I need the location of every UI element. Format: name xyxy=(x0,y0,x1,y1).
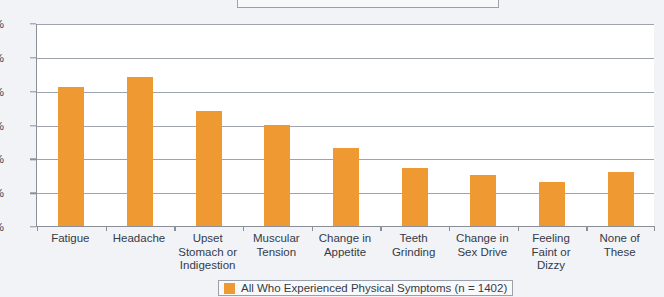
x-axis-category-label: FeelingFaint orDizzy xyxy=(517,232,586,273)
bar-slot xyxy=(106,24,175,226)
x-axis-category-label-line: Appetite xyxy=(311,246,380,260)
bar[interactable] xyxy=(196,111,222,226)
x-axis-category-label-line: Stomach or xyxy=(173,246,242,260)
x-axis-category-label: TeethGrinding xyxy=(379,232,448,259)
x-axis-tick-mark xyxy=(586,226,587,231)
bar[interactable] xyxy=(608,172,634,226)
x-axis-tick-mark xyxy=(380,226,381,231)
x-axis-tick-mark xyxy=(106,226,107,231)
bar[interactable] xyxy=(264,125,290,227)
x-axis-tick-mark xyxy=(312,226,313,231)
y-axis-tick-label: 20% xyxy=(0,153,4,165)
title-box xyxy=(237,0,499,8)
x-axis-category-label-line: Faint or xyxy=(517,246,586,260)
bar[interactable] xyxy=(470,175,496,226)
x-axis-category-label-line: Indigestion xyxy=(173,259,242,273)
x-axis-category-label: Fatigue xyxy=(36,232,105,246)
x-axis-tick-mark xyxy=(37,226,38,231)
bar-slot xyxy=(174,24,243,226)
chart-legend: All Who Experienced Physical Symptoms (n… xyxy=(218,280,513,296)
x-axis-category-label-line: Feeling xyxy=(517,232,586,246)
x-axis-category-label: MuscularTension xyxy=(242,232,311,259)
bar[interactable] xyxy=(127,77,153,226)
bar-slot xyxy=(380,24,449,226)
x-axis-category-label: UpsetStomach orIndigestion xyxy=(173,232,242,273)
x-axis-category-label-line: Upset xyxy=(173,232,242,246)
y-axis-tick-label: 60% xyxy=(0,18,4,30)
legend-label: All Who Experienced Physical Symptoms (n… xyxy=(241,282,507,294)
x-axis-category-label: None ofThese xyxy=(585,232,654,259)
chart-plot-area xyxy=(36,24,654,227)
x-axis-category-label-line: Grinding xyxy=(379,246,448,260)
x-axis-category-label-line: Teeth xyxy=(379,232,448,246)
y-axis-tick-label: 30% xyxy=(0,120,4,132)
x-axis-tick-mark xyxy=(174,226,175,231)
y-axis-tick-label: 0% xyxy=(0,221,4,233)
bar[interactable] xyxy=(402,168,428,226)
x-axis-category-label-line: Tension xyxy=(242,246,311,260)
bar[interactable] xyxy=(333,148,359,226)
bar-slot xyxy=(243,24,312,226)
y-axis-tick-label: 40% xyxy=(0,86,4,98)
x-axis-category-label-line: Change in xyxy=(448,232,517,246)
x-axis-tick-mark xyxy=(518,226,519,231)
x-axis-category-label-line: Muscular xyxy=(242,232,311,246)
bar[interactable] xyxy=(58,87,84,226)
bar-slot xyxy=(37,24,106,226)
x-axis-category-label: Change inSex Drive xyxy=(448,232,517,259)
x-axis-category-label-line: None of xyxy=(585,232,654,246)
bar[interactable] xyxy=(539,182,565,226)
y-axis-tick-label: 10% xyxy=(0,187,4,199)
x-axis-category-label-line: Headache xyxy=(105,232,174,246)
bar-slot xyxy=(518,24,587,226)
bar-slot xyxy=(312,24,381,226)
bar-slot xyxy=(586,24,655,226)
x-axis-category-label-line: Dizzy xyxy=(517,259,586,273)
x-axis-tick-mark xyxy=(243,226,244,231)
bar-slot xyxy=(449,24,518,226)
x-axis-labels: FatigueHeadacheUpsetStomach orIndigestio… xyxy=(36,232,654,278)
x-axis-category-label: Change inAppetite xyxy=(311,232,380,259)
x-axis-category-label-line: Fatigue xyxy=(36,232,105,246)
y-axis-tick-label: 50% xyxy=(0,52,4,64)
x-axis-category-label: Headache xyxy=(105,232,174,246)
x-axis-category-label-line: Sex Drive xyxy=(448,246,517,260)
x-axis-category-label-line: These xyxy=(585,246,654,260)
legend-swatch-icon xyxy=(224,283,235,294)
x-axis-tick-mark xyxy=(654,226,655,231)
x-axis-category-label-line: Change in xyxy=(311,232,380,246)
x-axis-tick-mark xyxy=(449,226,450,231)
